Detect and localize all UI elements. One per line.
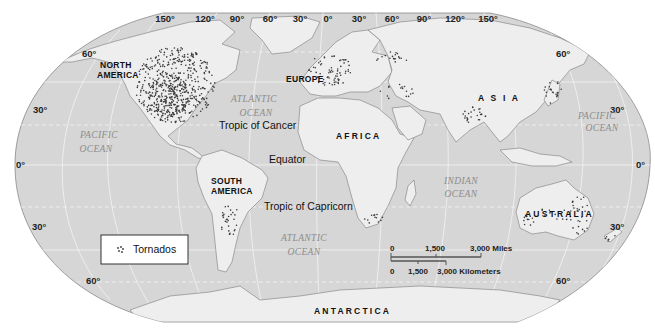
tornado-dot	[465, 115, 467, 117]
lat-label: 60°	[556, 48, 571, 59]
tornado-dot	[577, 196, 579, 198]
tornado-dot	[183, 82, 185, 84]
tornado-dot	[170, 75, 172, 77]
tornado-dot	[164, 95, 166, 97]
tornado-dot	[161, 99, 163, 101]
tornado-dot	[412, 93, 414, 95]
tornado-dot	[205, 70, 207, 72]
tornado-dot	[156, 107, 158, 109]
tornado-dot	[211, 75, 213, 77]
tornado-dot	[310, 71, 312, 73]
tornado-dot	[342, 82, 344, 84]
tornado-dot	[204, 73, 206, 75]
tornado-dot	[406, 90, 408, 92]
lat-label: 60°	[82, 48, 97, 59]
tornado-dot	[168, 62, 170, 64]
tornado-dot	[177, 86, 179, 88]
tornado-dot	[171, 107, 173, 109]
tornado-dot	[200, 60, 202, 62]
tornado-dot	[176, 77, 178, 79]
tornado-dot	[331, 56, 333, 58]
label-equator: Equator	[269, 153, 306, 165]
tornado-dot	[188, 77, 190, 79]
tornado-dot	[157, 114, 159, 116]
tornado-dot	[167, 64, 169, 66]
lat-label: 60°	[86, 275, 101, 286]
tornado-dot	[380, 91, 382, 93]
tornado-dot	[183, 89, 185, 91]
tornado-dot	[161, 100, 163, 102]
lon-label: 90°	[230, 13, 245, 24]
lat-label: 30°	[32, 221, 47, 232]
tornado-dot	[161, 86, 163, 88]
tornado-dot	[190, 77, 192, 79]
tornado-dot	[236, 225, 238, 227]
tornado-dot	[181, 84, 183, 86]
tornado-dot	[329, 69, 331, 71]
tornado-dot	[189, 64, 191, 66]
tornado-dot	[157, 91, 159, 93]
tornado-dot	[586, 220, 588, 222]
tornado-dot	[165, 72, 167, 74]
tornado-dot	[159, 111, 161, 113]
tornado-dot	[168, 90, 170, 92]
tornado-dot	[183, 81, 185, 83]
tornado-dot	[187, 70, 189, 72]
tornado-dot	[187, 98, 189, 100]
tornado-dot	[165, 102, 167, 104]
tornado-dot	[327, 77, 329, 79]
tornado-dot	[196, 71, 198, 73]
lat-label: 0°	[636, 159, 645, 170]
tornado-dot	[172, 63, 174, 65]
tornado-dot	[222, 212, 224, 214]
label-tropic-of-capricorn: Tropic of Capricorn	[264, 200, 353, 212]
tornado-dot	[147, 106, 149, 108]
tornado-dot	[180, 93, 182, 95]
tornado-dot	[169, 59, 171, 61]
tornado-dot	[338, 83, 340, 85]
tornado-dot	[544, 89, 546, 91]
tornado-dot	[164, 107, 166, 109]
tornado-dot	[182, 110, 184, 112]
tornado-dot	[149, 69, 151, 71]
tornado-dot	[180, 121, 182, 123]
tornado-dot	[188, 67, 190, 69]
tornado-dot	[156, 83, 158, 85]
tornado-dot	[201, 98, 203, 100]
tornado-dot	[171, 96, 173, 98]
tornado-dot	[233, 233, 235, 235]
tornado-dot	[608, 239, 610, 241]
label-south-america: AMERICA	[211, 186, 253, 196]
tornado-dot	[192, 89, 194, 91]
tornado-dot	[411, 88, 413, 90]
tornado-dot	[324, 82, 326, 84]
tornado-dot	[177, 98, 179, 100]
tornado-dot	[166, 98, 168, 100]
tornado-dot	[160, 66, 162, 68]
tornado-dot	[199, 95, 201, 97]
tornado-dot	[223, 217, 225, 219]
tornado-dot	[195, 105, 197, 107]
tornado-dot	[183, 72, 185, 74]
tornado-dot	[348, 65, 350, 67]
label-africa: AFRICA	[336, 131, 381, 141]
tornado-dot	[552, 92, 554, 94]
tornado-dot	[400, 87, 402, 89]
tornado-dot	[177, 96, 179, 98]
tornado-dot	[195, 99, 197, 101]
tornado-dot	[402, 88, 404, 90]
label-pacific-ocean: OCEAN	[79, 144, 112, 154]
tornado-dot	[390, 51, 392, 53]
tornado-dot	[212, 90, 214, 92]
tornado-dot	[151, 66, 153, 68]
tornado-dot	[374, 216, 376, 218]
lon-label: 120°	[195, 13, 215, 24]
tornado-dot	[335, 81, 337, 83]
tornado-dot	[170, 103, 172, 105]
tornado-dot	[479, 112, 481, 114]
tornado-dot	[324, 84, 326, 86]
tornado-dot	[184, 106, 186, 108]
tornado-dot	[157, 79, 159, 81]
tornado-dot	[168, 86, 170, 88]
tornado-dot	[155, 89, 157, 91]
